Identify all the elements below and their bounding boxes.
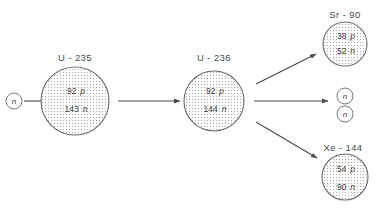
- nucleus-xe144-label: Xe - 144: [323, 142, 362, 153]
- nucleus-sr90-neutrons: 52 n: [337, 46, 355, 56]
- u235-proton-symbol: p: [79, 86, 85, 96]
- emitted-neutron-2-label: n: [343, 110, 348, 119]
- emitted-neutron-1-label: n: [343, 92, 348, 101]
- nucleus-u235-label: U - 235: [58, 52, 92, 63]
- emitted-neutron-2: n: [337, 106, 353, 122]
- u236-proton-symbol: p: [218, 86, 224, 96]
- nucleus-sr90-label: Sr - 90: [329, 9, 360, 20]
- emitted-neutron-1: n: [337, 88, 353, 104]
- nucleus-sr90: Sr - 90 38 p 52 n: [323, 9, 367, 66]
- u235-proton-count: 92: [67, 86, 77, 96]
- nucleus-xe144: Xe - 144 54 p 90 n: [322, 142, 368, 200]
- arrow-u236-to-xe144: [256, 122, 317, 158]
- nucleus-u236-neutrons: 144 n: [204, 104, 227, 114]
- xe144-neutron-symbol: n: [350, 182, 355, 192]
- nucleus-xe144-neutrons: 90 n: [337, 182, 355, 192]
- u236-neutron-symbol: n: [222, 104, 227, 114]
- nucleus-u235-circle: [41, 67, 109, 135]
- incoming-neutron-label: n: [12, 97, 17, 106]
- nucleus-u236-protons: 92 p: [206, 86, 224, 96]
- xe144-proton-symbol: p: [349, 164, 355, 174]
- nucleus-xe144-circle: [322, 154, 368, 200]
- u235-neutron-symbol: n: [83, 104, 88, 114]
- nucleus-sr90-protons: 38 p: [337, 31, 355, 41]
- sr90-neutron-symbol: n: [350, 46, 355, 56]
- nucleus-u236-circle: [184, 71, 244, 131]
- xe144-proton-count: 54: [337, 164, 347, 174]
- sr90-proton-symbol: p: [349, 31, 355, 41]
- nucleus-u236: U - 236 92 p 144 n: [184, 52, 244, 131]
- nucleus-u235: U - 235 92 p 143 n: [41, 52, 109, 135]
- nucleus-u236-label: U - 236: [197, 52, 231, 63]
- nucleus-u235-protons: 92 p: [67, 86, 85, 96]
- nucleus-xe144-protons: 54 p: [337, 164, 355, 174]
- arrow-u236-to-sr90: [256, 54, 316, 84]
- fission-diagram: n U - 235 92 p 143 n U - 236 92 p: [0, 0, 382, 209]
- fission-diagram-canvas: n U - 235 92 p 143 n U - 236 92 p: [0, 0, 382, 209]
- u235-neutron-count: 143: [65, 104, 79, 114]
- u236-neutron-count: 144: [204, 104, 218, 114]
- xe144-neutron-count: 90: [337, 182, 347, 192]
- u236-proton-count: 92: [206, 86, 216, 96]
- nucleus-sr90-circle: [323, 22, 367, 66]
- sr90-neutron-count: 52: [337, 46, 347, 56]
- nucleus-u235-neutrons: 143 n: [65, 104, 88, 114]
- sr90-proton-count: 38: [337, 31, 347, 41]
- incoming-neutron: n: [6, 93, 22, 109]
